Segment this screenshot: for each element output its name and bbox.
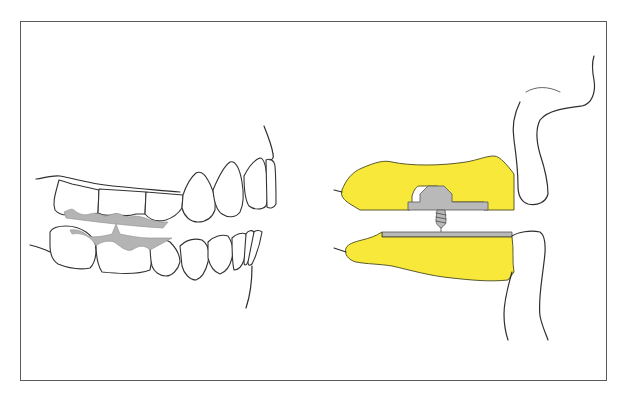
dental-illustration (0, 0, 623, 397)
upper-lip-contour (264, 126, 273, 160)
upper-canine (213, 162, 243, 217)
occlusion-rims-section (334, 56, 595, 340)
dentition-lateral-view (30, 126, 276, 308)
upper-lateral-incisor (244, 158, 268, 209)
lower-metal-plate (382, 232, 512, 237)
upper-rim-stub (334, 190, 342, 192)
upper-molar-1 (54, 180, 99, 216)
lower-lip-profile (512, 231, 548, 340)
lower-premolar-2 (180, 239, 209, 280)
lower-gum-line (30, 245, 50, 252)
upper-lip-profile (513, 56, 594, 205)
upper-molar-2 (98, 189, 146, 216)
lower-wax-rim (345, 232, 514, 281)
upper-premolar-1 (145, 192, 183, 221)
lower-lip-contour (246, 266, 252, 308)
lower-lip-inner-profile (504, 272, 512, 340)
upper-premolar-2 (182, 172, 215, 222)
upper-central-incisor (266, 159, 276, 208)
central-bearing-pin (436, 210, 446, 232)
lower-rim-stub (334, 248, 346, 252)
nostril-line (526, 88, 560, 93)
lower-canine (208, 235, 233, 274)
